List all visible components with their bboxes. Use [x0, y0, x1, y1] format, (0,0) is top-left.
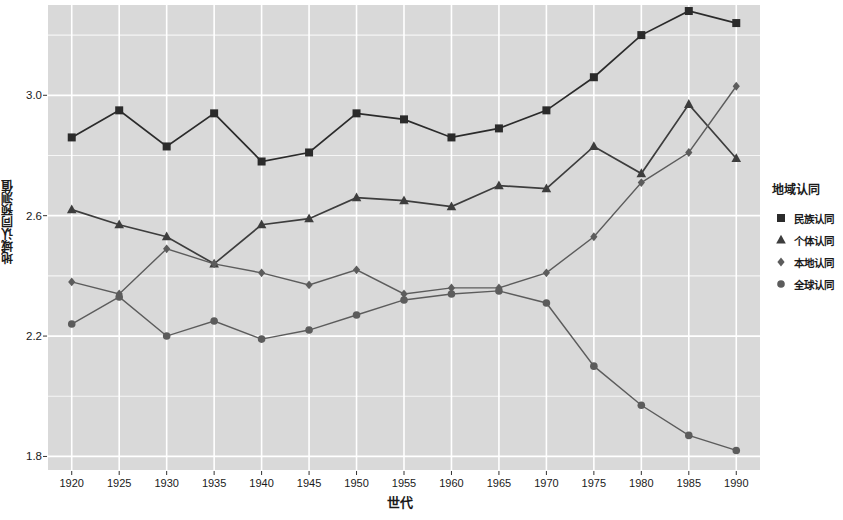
x-tick-label: 1980 [629, 477, 653, 489]
legend-marker-triangle-icon [772, 232, 790, 248]
data-point-square [210, 109, 218, 117]
legend-item-1[interactable]: 民族认同 [772, 207, 842, 229]
x-tick-label: 1990 [724, 477, 748, 489]
y-tick-label: 1.8 [0, 450, 42, 462]
data-point-circle [115, 293, 123, 301]
x-axis-label: 世代 [0, 492, 800, 511]
data-point-circle [163, 332, 171, 340]
data-point-square [777, 214, 785, 222]
data-point-circle [495, 287, 503, 295]
data-point-square [163, 142, 171, 150]
data-point-square [732, 19, 740, 27]
data-point-circle [400, 296, 408, 304]
data-point-square [447, 133, 455, 141]
x-tick-label: 1960 [439, 477, 463, 489]
data-point-square [400, 115, 408, 123]
legend-marker-diamond-icon [772, 254, 790, 270]
legend-label: 本地认同 [794, 255, 834, 270]
data-point-triangle [776, 235, 786, 244]
data-point-circle [638, 401, 646, 409]
legend-label: 全球认同 [794, 277, 834, 292]
data-point-circle [258, 335, 266, 343]
legend-title: 地域认同 [772, 180, 842, 197]
legend-item-4[interactable]: 全球认同 [772, 273, 842, 295]
data-point-square [685, 7, 693, 15]
x-tick-label: 1955 [392, 477, 416, 489]
legend-item-3[interactable]: 本地认同 [772, 251, 842, 273]
x-tick-label: 1930 [154, 477, 178, 489]
x-tick-label: 1920 [59, 477, 83, 489]
data-point-circle [210, 317, 218, 325]
data-point-square [590, 73, 598, 81]
x-tick-label: 1970 [534, 477, 558, 489]
legend-marker-circle-icon [772, 276, 790, 292]
data-point-square [68, 133, 76, 141]
x-tick-label: 1925 [107, 477, 131, 489]
legend-label: 民族认同 [794, 211, 834, 226]
data-point-circle [68, 320, 76, 328]
data-point-circle [777, 280, 785, 288]
x-tick-label: 1935 [202, 477, 226, 489]
legend-marker-square-icon [772, 210, 790, 226]
data-point-circle [448, 290, 456, 298]
legend-item-2[interactable]: 个体认同 [772, 229, 842, 251]
legend: 地域认同民族认同个体认同本地认同全球认同 [772, 180, 842, 295]
y-axis-label: 地域认同预测值 [2, 180, 22, 264]
data-point-square [495, 124, 503, 132]
x-tick-label: 1940 [249, 477, 273, 489]
data-point-circle [543, 299, 551, 307]
data-point-circle [353, 311, 361, 319]
plot-area [0, 0, 843, 520]
data-point-square [637, 31, 645, 39]
y-tick-label: 3.0 [0, 89, 42, 101]
x-tick-label: 1965 [487, 477, 511, 489]
data-point-square [542, 106, 550, 114]
x-tick-label: 1975 [582, 477, 606, 489]
y-tick-label: 2.2 [0, 330, 42, 342]
chart-figure: 1.82.22.63.01920192519301935194019451950… [0, 0, 843, 520]
legend-label: 个体认同 [794, 233, 834, 248]
data-point-diamond [777, 258, 784, 267]
data-point-square [353, 109, 361, 117]
data-point-square [258, 158, 266, 166]
data-point-circle [685, 432, 693, 440]
data-point-circle [305, 326, 313, 334]
data-point-circle [732, 447, 740, 455]
data-point-square [115, 106, 123, 114]
data-point-circle [590, 362, 598, 370]
x-tick-label: 1950 [344, 477, 368, 489]
x-tick-label: 1945 [297, 477, 321, 489]
data-point-square [305, 148, 313, 156]
x-tick-label: 1985 [677, 477, 701, 489]
